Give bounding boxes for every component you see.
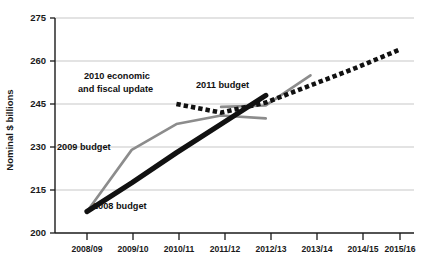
x-tick-label-2011-12: 2011/12 — [210, 244, 241, 254]
label-2010-update-line2: and fiscal update — [78, 84, 153, 94]
y-tick-label-230: 230 — [30, 141, 46, 152]
y-axis-title: Nominal $ billions — [4, 89, 15, 170]
y-tick-label-275: 275 — [30, 12, 47, 23]
x-tick-label-2013-14: 2013/14 — [301, 244, 332, 254]
chart-container: 275 260 245 230 215 200 Nominal $ billio… — [0, 0, 423, 260]
x-tick-label-2008-09: 2008/09 — [71, 244, 102, 254]
label-2010-update-line1: 2010 economic — [84, 71, 150, 81]
x-tick-label-2014-15: 2014/15 — [347, 244, 378, 254]
x-tick-label-2015-16: 2015/16 — [384, 244, 415, 254]
y-tick-label-215: 215 — [30, 184, 47, 195]
x-tick-label-2012-13: 2012/13 — [255, 244, 286, 254]
line-chart: 275 260 245 230 215 200 Nominal $ billio… — [0, 0, 423, 260]
x-tick-label-2009-10: 2009/10 — [117, 244, 148, 254]
x-tick-label-2010-11: 2010/11 — [164, 244, 195, 254]
label-2008-budget: 2008 budget — [93, 201, 147, 211]
label-2009-budget: 2009 budget — [57, 142, 111, 152]
y-tick-label-200: 200 — [30, 227, 46, 238]
y-tick-label-245: 245 — [30, 98, 47, 109]
y-tick-label-260: 260 — [30, 55, 46, 66]
label-2011-budget: 2011 budget — [196, 80, 249, 90]
